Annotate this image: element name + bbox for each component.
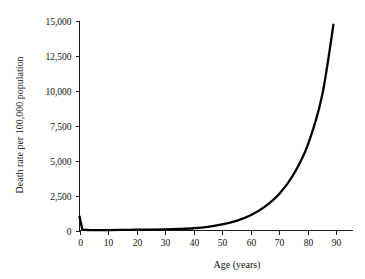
- death-rate-curve: [80, 25, 334, 230]
- death-rate-by-age-chart: 02,5005,0007,50010,00012,50015,000 01020…: [0, 0, 365, 279]
- y-tick-label: 10,000: [45, 87, 71, 97]
- x-tick-label: 60: [247, 238, 257, 248]
- y-tick-label: 7,500: [50, 122, 72, 132]
- x-tick-label: 20: [133, 238, 143, 248]
- x-tick-label: 0: [78, 238, 83, 248]
- x-tick-label: 80: [304, 238, 314, 248]
- x-tick-label: 30: [161, 238, 171, 248]
- x-axis-tick-labels: 0102030405060708090: [78, 238, 341, 248]
- y-axis-title: Death rate per 100,000 population: [14, 57, 25, 194]
- y-tick-label: 15,000: [45, 17, 71, 27]
- y-tick-label: 5,000: [50, 157, 72, 167]
- y-axis-group: 02,5005,0007,50010,00012,50015,000: [45, 17, 79, 237]
- x-axis-title: Age (years): [214, 259, 261, 271]
- y-axis-ticks: [76, 22, 80, 232]
- chart-canvas: 02,5005,0007,50010,00012,50015,000 01020…: [0, 0, 365, 279]
- x-tick-label: 70: [275, 238, 285, 248]
- y-tick-label: 0: [67, 227, 72, 237]
- x-axis-group: 0102030405060708090: [78, 231, 352, 248]
- x-tick-label: 10: [104, 238, 114, 248]
- y-tick-label: 12,500: [45, 52, 71, 62]
- series-group: [80, 25, 334, 230]
- y-axis-tick-labels: 02,5005,0007,50010,00012,50015,000: [45, 17, 71, 237]
- x-tick-label: 90: [332, 238, 342, 248]
- y-tick-label: 2,500: [50, 192, 72, 202]
- x-tick-label: 40: [190, 238, 200, 248]
- x-tick-label: 50: [218, 238, 228, 248]
